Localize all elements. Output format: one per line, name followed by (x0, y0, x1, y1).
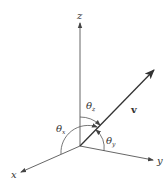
theta-y-arc (96, 130, 104, 151)
y-axis (80, 146, 153, 160)
vector-v-label: v (131, 105, 137, 115)
theta-x-arc (61, 125, 97, 154)
y-axis-label: y (157, 156, 163, 166)
z-axis-label: z (77, 11, 82, 21)
theta-z-arc (80, 117, 100, 125)
theta-y-label: θy (106, 136, 115, 147)
theta-z-label: θz (86, 101, 95, 112)
theta-x-label: θx (56, 124, 65, 135)
x-axis-label: x (11, 170, 17, 180)
direction-angles-diagram (0, 0, 168, 184)
x-axis (21, 146, 80, 172)
